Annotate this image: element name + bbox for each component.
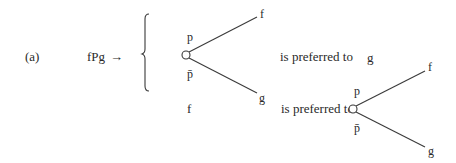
lottery-tree-2: p p̄ f g <box>349 60 434 158</box>
tree2-chance-node <box>349 105 357 113</box>
tree1-lower-outcome: g <box>259 91 265 105</box>
lottery-tree-1: p p̄ f g <box>182 7 265 105</box>
diagram-canvas: (a) fPg → p p̄ f g is preferred to g f i… <box>0 0 456 163</box>
tree1-upper-label: p <box>187 30 193 44</box>
tree2-lower-label: p̄ <box>354 121 360 135</box>
rhs-outcome-1: g <box>367 50 374 65</box>
tree1-lower-branch <box>189 58 257 93</box>
tree1-lower-label: p̄ <box>187 67 193 81</box>
tree2-lower-branch <box>356 112 425 147</box>
premise-text: fPg <box>87 49 106 64</box>
left-brace <box>142 14 149 91</box>
tree2-upper-outcome: f <box>428 60 432 74</box>
figure-label: (a) <box>25 49 39 64</box>
tree1-upper-outcome: f <box>260 7 264 21</box>
lhs-outcome-2: f <box>187 101 192 116</box>
arrow-icon: → <box>110 49 123 64</box>
relation-text-1: is preferred to <box>280 49 353 64</box>
tree2-upper-label: p <box>354 84 360 98</box>
tree1-upper-branch <box>189 17 257 52</box>
tree2-lower-outcome: g <box>428 144 434 158</box>
tree2-upper-branch <box>356 71 425 106</box>
tree1-chance-node <box>182 51 190 59</box>
relation-text-2: is preferred to <box>281 101 354 116</box>
